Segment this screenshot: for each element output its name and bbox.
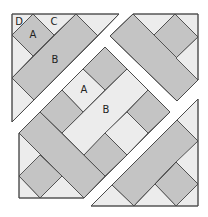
label-d: D xyxy=(15,16,23,27)
label-c: C xyxy=(51,16,58,27)
label-b-top-left: B xyxy=(52,54,59,65)
label-a-top-left: A xyxy=(30,29,37,40)
label-b-center: B xyxy=(103,104,110,115)
quilt-block-diagram: D C A B A B xyxy=(0,0,208,217)
label-a-center: A xyxy=(81,84,88,95)
